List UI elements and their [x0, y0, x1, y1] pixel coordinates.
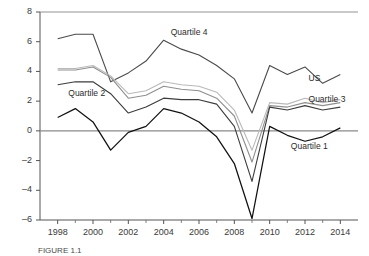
y-tick-label: –4	[6, 184, 32, 194]
x-tick-label: 2006	[186, 227, 212, 237]
x-tick-label: 2012	[292, 227, 318, 237]
x-tick-label: 2008	[221, 227, 247, 237]
series-label-quartile-2: Quartile 2	[68, 88, 105, 98]
x-tick-label: 2014	[327, 227, 353, 237]
y-tick-label: 8	[6, 6, 32, 16]
series-line-quartile-4	[58, 34, 341, 113]
y-tick-label: 2	[6, 95, 32, 105]
series-label-us: US	[309, 73, 321, 83]
y-tick-label: 4	[6, 65, 32, 75]
x-tick-label: 2002	[115, 227, 141, 237]
line-chart-svg	[0, 0, 369, 256]
y-tick-label: 0	[6, 125, 32, 135]
x-tick-label: 1998	[45, 227, 71, 237]
x-tick-label: 2004	[151, 227, 177, 237]
series-label-quartile-3: Quartile 3	[309, 94, 346, 104]
series-label-quartile-1: Quartile 1	[291, 141, 328, 151]
x-tick-label: 2010	[257, 227, 283, 237]
y-tick-label: –6	[6, 214, 32, 224]
y-tick-label: –2	[6, 155, 32, 165]
x-tick-label: 2000	[80, 227, 106, 237]
y-tick-label: 6	[6, 36, 32, 46]
series-line-quartile-1	[58, 109, 341, 219]
chart-figure: –6–4–202468 1998200020022004200620082010…	[0, 0, 369, 256]
figure-caption: FIGURE 1.1	[38, 246, 82, 256]
series-label-quartile-4: Quartile 4	[171, 27, 208, 37]
